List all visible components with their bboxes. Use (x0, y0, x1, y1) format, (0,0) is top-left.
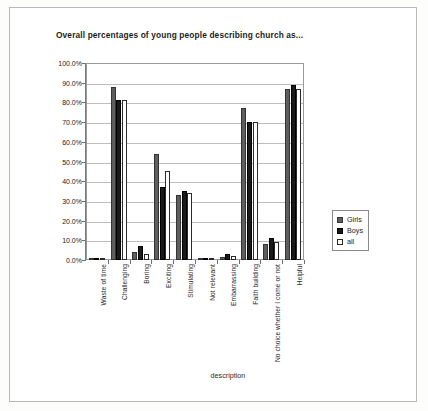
bar (111, 87, 116, 260)
legend-swatch-icon (337, 239, 343, 245)
y-axis-tick-label: 50.0% (62, 158, 82, 165)
bar-group (285, 63, 301, 260)
legend-swatch-icon (337, 217, 343, 223)
bar (203, 258, 208, 260)
bar-group (263, 63, 279, 260)
legend-item-label: Girls (347, 215, 362, 224)
bar (176, 195, 181, 260)
x-axis-tick-label: Challenging (121, 264, 128, 300)
bar-group (220, 63, 236, 260)
y-axis-tick-label: 40.0% (62, 178, 82, 185)
y-axis-tick-label: 10.0% (62, 237, 82, 244)
bar (94, 258, 99, 260)
legend-item-label: all (347, 237, 354, 246)
bar (274, 242, 279, 260)
bar-group (111, 63, 127, 260)
bar-group (89, 63, 105, 260)
bar (296, 89, 301, 260)
bar (241, 108, 246, 260)
bar (116, 100, 121, 260)
legend-item: all (337, 236, 363, 247)
bar (138, 246, 143, 260)
bar (225, 254, 230, 260)
x-axis-tick-label: Waste of time (100, 264, 107, 305)
bar (291, 85, 296, 260)
y-axis-tick-label: 80.0% (62, 99, 82, 106)
x-axis-tick-label: Exciting (165, 264, 172, 288)
x-axis-tick-label: Helpful (296, 264, 303, 285)
bar (220, 257, 225, 260)
bar (144, 254, 149, 260)
y-axis-tick-label: 20.0% (62, 217, 82, 224)
x-axis-tick-label: Not relevant (209, 264, 216, 301)
y-axis-tick-label: 90.0% (62, 79, 82, 86)
bar (154, 154, 159, 260)
plot-wrapper (86, 63, 304, 260)
y-axis-tick-label: 100.0% (58, 60, 82, 67)
y-axis-tick-label: 60.0% (62, 138, 82, 145)
y-axis-tick-label: 30.0% (62, 197, 82, 204)
bar (253, 122, 258, 260)
x-axis-tick-mark (304, 260, 305, 264)
legend-item-label: Boys (347, 226, 363, 235)
x-axis-tick-label: Boring (143, 264, 150, 284)
bar (132, 252, 137, 260)
bar (285, 89, 290, 260)
y-axis-tick-labels: 100.0%90.0%80.0%70.0%60.0%50.0%40.0%30.0… (40, 63, 82, 260)
bar-group (132, 63, 148, 260)
y-axis-tick-label: 0.0% (66, 257, 82, 264)
bar-group (154, 63, 170, 260)
x-axis-tick-labels: Waste of timeChallengingBoringExcitingSt… (86, 264, 304, 360)
legend-item: Boys (337, 225, 363, 236)
bar (209, 258, 214, 260)
bars-layer (86, 63, 304, 260)
chart-title: Overall percentages of young people desc… (56, 30, 386, 40)
bar (231, 256, 236, 260)
bar (165, 171, 170, 260)
x-axis-tick-label: No choice whether I come or not (274, 264, 281, 362)
bar (182, 191, 187, 260)
bar-group (241, 63, 257, 260)
x-axis-title: description (0, 371, 428, 380)
bar (100, 258, 105, 260)
bar (160, 187, 165, 260)
chart-legend: GirlsBoysall (332, 210, 369, 251)
bar (89, 258, 94, 260)
x-axis-tick-label: Faith building (252, 264, 259, 305)
scanned-page: Overall percentages of young people desc… (0, 0, 428, 411)
bar (247, 122, 252, 260)
legend-swatch-icon (337, 228, 343, 234)
bar (187, 193, 192, 260)
bar (122, 100, 127, 260)
x-axis-tick-label: Embarrassing (230, 264, 237, 306)
x-axis-tick-label: Stimulating (187, 264, 194, 298)
bar (263, 244, 268, 260)
bar (198, 258, 203, 260)
y-axis-tick-label: 70.0% (62, 119, 82, 126)
bar (269, 238, 274, 260)
bar-group (198, 63, 214, 260)
bar-group (176, 63, 192, 260)
legend-item: Girls (337, 214, 363, 225)
